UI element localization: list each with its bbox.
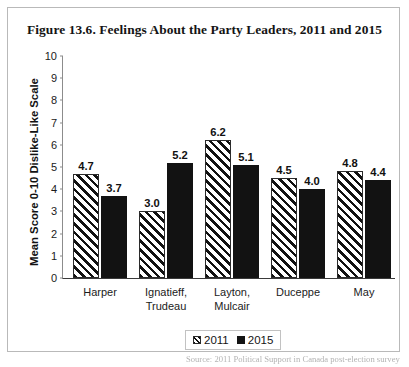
chart-legend: 20112015 — [185, 330, 281, 350]
bar-group: 6.25.1 — [199, 56, 265, 278]
figure-title: Figure 13.6. Feelings About the Party Le… — [8, 22, 401, 38]
bar-value-label: 5.1 — [238, 151, 254, 163]
bar-value-label: 3.7 — [106, 182, 122, 194]
x-category-label: Ignatieff,Trudeau — [133, 286, 199, 313]
y-tick-label: 7 — [51, 117, 57, 129]
bar-value-label: 5.2 — [172, 149, 188, 161]
bar-2015: 5.2 — [167, 163, 193, 278]
y-tick-label: 0 — [51, 272, 57, 284]
y-tick-label: 4 — [51, 183, 57, 195]
figure-frame: Figure 13.6. Feelings About the Party Le… — [7, 7, 400, 352]
y-tick-label: 5 — [51, 161, 57, 173]
bar-2011: 4.5 — [271, 178, 297, 278]
y-axis-title: Mean Score 0-10 Dislike-Like Scale — [28, 57, 40, 287]
source-note: Source: 2011 Political Support in Canada… — [186, 354, 400, 364]
bar-2015: 3.7 — [101, 196, 127, 278]
bar-group: 4.54.0 — [265, 56, 331, 278]
bar-group: 4.73.7 — [67, 56, 133, 278]
legend-entry-2015: 2015 — [237, 334, 274, 346]
x-category-label: Duceppe — [265, 286, 331, 300]
bar-2011: 6.2 — [205, 140, 231, 278]
bar-value-label: 4.8 — [342, 157, 358, 169]
y-tick-label: 2 — [51, 228, 57, 240]
bar-2015: 4.4 — [365, 180, 391, 278]
plot-area: 012345678910 4.73.73.05.26.25.14.54.04.8… — [62, 56, 395, 279]
x-category-label: Harper — [67, 286, 133, 300]
x-category-label: Layton,Mulcair — [199, 286, 265, 313]
y-tick-label: 3 — [51, 205, 57, 217]
hatched-swatch-icon — [193, 336, 201, 344]
y-tick-label: 9 — [51, 72, 57, 84]
y-tick-label: 8 — [51, 94, 57, 106]
y-tick-label: 1 — [51, 250, 57, 262]
bar-value-label: 3.0 — [144, 197, 160, 209]
y-tick-label: 10 — [45, 50, 57, 62]
bar-group: 3.05.2 — [133, 56, 199, 278]
x-category-label: May — [331, 286, 397, 300]
bar-2011: 4.8 — [337, 171, 363, 278]
bar-group: 4.84.4 — [331, 56, 397, 278]
bar-value-label: 4.4 — [370, 166, 386, 178]
bars-layer: 4.73.73.05.26.25.14.54.04.84.4 — [63, 56, 395, 278]
bar-2015: 4.0 — [299, 189, 325, 278]
bar-2011: 3.0 — [139, 211, 165, 278]
solid-black-swatch-icon — [237, 336, 245, 344]
bar-value-label: 4.5 — [276, 164, 292, 176]
legend-label: 2015 — [248, 334, 274, 346]
bar-value-label: 6.2 — [210, 126, 226, 138]
bar-2011: 4.7 — [73, 174, 99, 278]
y-tick-label: 6 — [51, 139, 57, 151]
bar-value-label: 4.0 — [304, 175, 320, 187]
legend-entry-2011: 2011 — [193, 334, 229, 346]
legend-label: 2011 — [204, 334, 229, 346]
bar-2015: 5.1 — [233, 165, 259, 278]
bar-value-label: 4.7 — [78, 160, 94, 172]
